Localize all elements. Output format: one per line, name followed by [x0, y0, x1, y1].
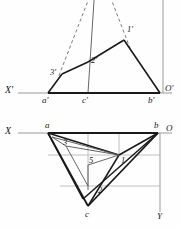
segment-three-prime-two-prime	[62, 62, 88, 74]
segment-b-inner-edge	[83, 133, 158, 199]
label-c-prime-vertex: c'	[82, 96, 88, 105]
label-x-axis: X	[5, 126, 11, 136]
drawing-canvas	[0, 0, 180, 228]
label-x-prime-axis: X'	[5, 85, 13, 95]
segment-one-prime-b-prime	[124, 40, 160, 93]
label-o-origin: O	[166, 124, 173, 133]
altitude-line-apex-to-c-prime	[88, 0, 96, 93]
label-c-vertex: c	[85, 210, 89, 219]
segment-three-two-thin	[66, 146, 88, 186]
label-b-vertex: b	[154, 121, 159, 130]
label-a-prime-vertex: a'	[42, 96, 48, 105]
segment-b-c	[88, 133, 158, 206]
label-b-prime-vertex: b'	[148, 96, 154, 105]
label-a-vertex: a	[45, 121, 50, 130]
label-o-prime-origin: O'	[165, 84, 173, 93]
label-five-point: 5	[89, 156, 93, 165]
label-y-axis: Y	[157, 212, 162, 221]
label-three-prime-point: 3'	[50, 68, 56, 77]
label-two-prime-point: 2'	[91, 56, 97, 65]
label-three-point: 3	[63, 138, 67, 147]
label-two-point: 2	[98, 186, 102, 195]
technical-drawing-figure: X' O' a' c' b' 1' 2' 3' X O Y a b c 1 2 …	[0, 0, 180, 228]
label-one-prime-point: 1'	[127, 25, 133, 34]
segment-one-b	[119, 133, 158, 155]
label-one-point: 1	[121, 156, 125, 165]
